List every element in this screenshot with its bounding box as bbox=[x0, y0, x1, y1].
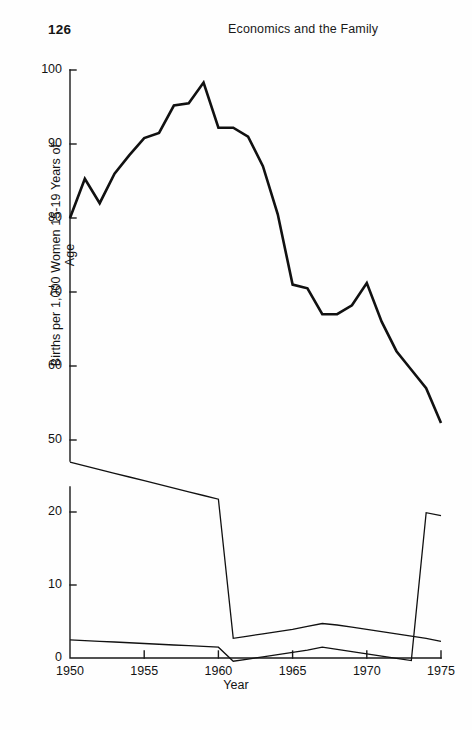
x-tick-label-1955: 1955 bbox=[121, 664, 167, 678]
running-head: 126 Economics and the Family bbox=[0, 22, 472, 42]
series-lower-curve bbox=[70, 513, 441, 662]
y-tick-label-90: 90 bbox=[28, 136, 62, 150]
y-tick-label-10: 10 bbox=[28, 577, 62, 591]
x-tick-label-1970: 1970 bbox=[344, 664, 390, 678]
y-tick-label-80: 80 bbox=[28, 210, 62, 224]
x-tick-label-1950: 1950 bbox=[47, 664, 93, 678]
figure-chart: Births per 1,000 Women 15-19 Years of Ag… bbox=[0, 50, 472, 730]
y-tick-label-0: 0 bbox=[28, 650, 62, 664]
x-axis-label: Year bbox=[0, 678, 472, 692]
y-tick-label-50: 50 bbox=[28, 432, 62, 446]
x-tick-label-1960: 1960 bbox=[195, 664, 241, 678]
y-tick-label-100: 100 bbox=[28, 62, 62, 76]
page-number: 126 bbox=[48, 22, 71, 37]
y-tick-label-60: 60 bbox=[28, 358, 62, 372]
chart-layer bbox=[70, 70, 441, 661]
x-tick-label-1975: 1975 bbox=[418, 664, 464, 678]
y-tick-label-70: 70 bbox=[28, 284, 62, 298]
book-page: 126 Economics and the Family Births per … bbox=[0, 0, 472, 730]
series-upper-curve bbox=[70, 83, 441, 423]
y-tick-label-20: 20 bbox=[28, 504, 62, 518]
running-head-title: Economics and the Family bbox=[228, 22, 378, 36]
series-middle-curve bbox=[70, 462, 441, 641]
y-axis-label-wrapper: Births per 1,000 Women 15-19 Years of Ag… bbox=[49, 135, 67, 375]
x-tick-label-1965: 1965 bbox=[270, 664, 316, 678]
y-axis-label: Births per 1,000 Women 15-19 Years of Ag… bbox=[49, 135, 77, 375]
